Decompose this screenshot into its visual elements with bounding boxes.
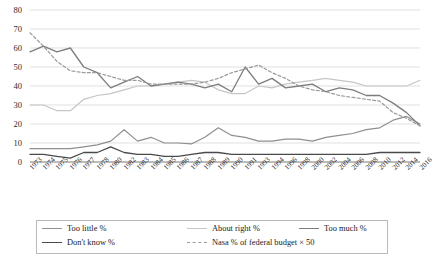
legend-swatch-icon: [42, 228, 62, 229]
y-tick-label: 30: [0, 100, 22, 110]
plot-area: 01020304050607080 1973197419751976197719…: [0, 0, 429, 218]
legend-label: About right %: [212, 224, 260, 233]
legend-item[interactable]: Don't know %: [42, 238, 115, 247]
legend-item[interactable]: Too little %: [42, 224, 106, 233]
series-line-0: [30, 116, 420, 148]
legend-swatch-icon: [187, 242, 207, 243]
legend-label: Too little %: [67, 224, 106, 233]
legend-label: Don't know %: [67, 238, 115, 247]
legend-label: Nasa % of federal budget × 50: [212, 238, 314, 247]
legend-swatch-icon: [187, 228, 207, 229]
y-tick-label: 20: [0, 119, 22, 129]
y-tick-label: 70: [0, 24, 22, 34]
chart-canvas: [0, 0, 429, 218]
y-tick-label: 50: [0, 62, 22, 72]
y-tick-label: 40: [0, 81, 22, 91]
legend-swatch-icon: [299, 228, 319, 229]
legend-item[interactable]: About right %: [187, 224, 260, 233]
legend-label: Too much %: [324, 224, 367, 233]
series-line-4: [30, 33, 420, 126]
y-tick-label: 0: [0, 157, 22, 167]
y-tick-label: 80: [0, 5, 22, 15]
legend-item[interactable]: Too much %: [299, 224, 367, 233]
legend-swatch-icon: [42, 242, 62, 243]
legend-item[interactable]: Nasa % of federal budget × 50: [187, 238, 314, 247]
y-tick-label: 10: [0, 138, 22, 148]
y-tick-label: 60: [0, 43, 22, 53]
chart-legend: Too little %About right %Too much %Don't…: [36, 220, 388, 254]
series-line-1: [30, 78, 420, 110]
